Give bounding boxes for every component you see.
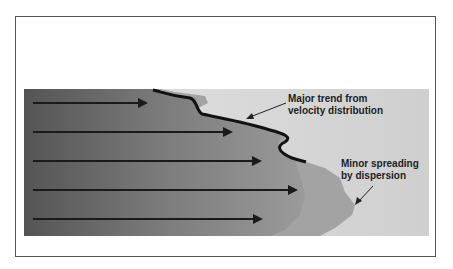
minor-spreading-line2: by dispersion (341, 170, 419, 182)
major-trend-line2: velocity distribution (288, 105, 383, 117)
major-trend-line1: Major trend from (288, 93, 383, 105)
minor-spreading-label: Minor spreading by dispersion (341, 158, 419, 182)
major-trend-label: Major trend from velocity distribution (288, 93, 383, 117)
minor-spreading-line1: Minor spreading (341, 158, 419, 170)
plume-diagram (0, 0, 453, 269)
